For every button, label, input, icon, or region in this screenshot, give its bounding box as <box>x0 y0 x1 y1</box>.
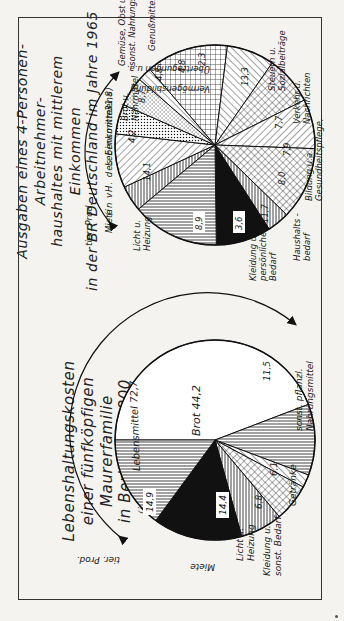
label-gemuese-1965-l2: sonst. Nahrungsmittel <box>127 0 137 66</box>
label-tier-1800: tier. Prod. <box>77 555 120 565</box>
value-tier-1800: 14,9 <box>145 492 155 512</box>
label-verkehr-1965-l1: Verkehr u. <box>292 80 302 124</box>
label-sonst-1800-l1: sonst. pflanzl. <box>294 368 304 431</box>
value-licht-1965: 3,6 <box>234 216 244 230</box>
value-verkehr-1965: 7,7 <box>274 115 284 129</box>
label-licht-1800-l1: Licht u. <box>235 528 245 561</box>
value-miete-1965: 8,9 <box>194 216 204 230</box>
scan-speck <box>335 615 338 618</box>
value-gemuese-1965: 8,7 <box>137 89 147 103</box>
value-kleidung-1800: 6,1 <box>269 462 279 476</box>
value-kleidung-1965: 11,7 <box>260 203 270 223</box>
label-kleidung-1965-l3: Bedarf <box>268 251 278 281</box>
label-genuss-1965: Genußmittel <box>147 0 157 51</box>
label-steuern-1965-l2: Sozialbeiträge <box>277 30 287 91</box>
label-lebensmittel-1965: Lebensmittel <box>104 107 114 166</box>
label-haushalt-1965-l2: bedarf <box>302 231 312 261</box>
label-haushalt-1965-l1: Haushalts - <box>292 213 302 261</box>
label-getraenke-1800: Getränke <box>288 464 298 506</box>
value-sonst-1800: 11,5 <box>262 361 272 381</box>
label-brot-1800: Brot 44,2 <box>190 385 203 436</box>
label-verkehr-1965-l2: Nachrichten <box>302 73 312 125</box>
label-miete-1800: Miete <box>190 562 215 572</box>
label-gesundheit-1965-l1: Gesundheitspflege, <box>314 118 324 201</box>
value-steuern-1965: 13,3 <box>240 67 250 86</box>
value-miete-1800: 14,4 <box>218 495 228 515</box>
value-uebertrag-1965: 2,3 <box>197 52 207 66</box>
label-gesundheit-1965-l2: Bildung u.a. <box>304 150 314 201</box>
value-haushalt-1965: 8,0 <box>277 171 287 185</box>
label-tier-1965: tier. Prod. <box>84 203 94 246</box>
label-gemuese-1965-l1: Gemüse, Obst u. <box>117 0 127 66</box>
label-kleidung-1800-l2: sonst. Bedarf <box>273 515 283 576</box>
label-licht-1965-l2: Heizung <box>142 216 152 251</box>
value-tier-1965: 14,1 <box>142 162 152 181</box>
label-kleidung-1965-l1: Kleidung u. <box>248 233 258 281</box>
label-brot-1965-l1: Brot u. <box>120 92 130 121</box>
value-gesundheit-1965: 7,9 <box>282 142 292 156</box>
figure-page: Lebenshaltungskosten einer fünfköpfigen … <box>0 0 344 621</box>
value-licht-1800: 6,8 <box>254 494 264 509</box>
charts-svg: Lebensmittel 72,7 Brot 44,2 tier. Prod. … <box>0 0 344 621</box>
value-genuss-1965: 4,8 <box>154 67 164 81</box>
label-kleidung-1965-l2: persönlicher <box>258 228 268 282</box>
label-licht-1800-l2: Heizung <box>246 524 256 561</box>
label-steuern-1965-l1: Steuern u. <box>267 47 277 91</box>
value-vermoegen-1965: 4,8 <box>177 59 187 73</box>
label-licht-1965-l1: Licht u. <box>132 220 142 251</box>
label-sonst-1800-l2: Nahrungsmittel <box>305 361 315 431</box>
label-kleidung-1800-l1: Kleidung u. <box>262 525 272 576</box>
value-brot-1965: 4,2 <box>127 129 137 143</box>
value-lebensmittel-1965: 31,8 <box>104 91 114 111</box>
